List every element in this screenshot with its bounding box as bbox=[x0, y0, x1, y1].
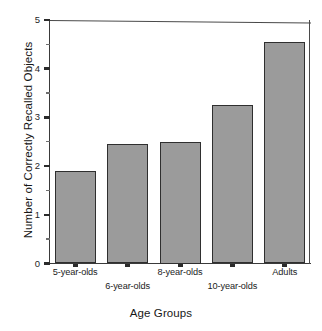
x-tick-label: 8-year-olds bbox=[140, 268, 220, 277]
bar bbox=[160, 142, 201, 264]
y-tick-major bbox=[44, 262, 50, 265]
y-tick-label: 1 bbox=[20, 210, 40, 220]
y-tick-major bbox=[44, 116, 50, 119]
y-tick-major bbox=[44, 19, 50, 22]
y-tick-major bbox=[44, 67, 50, 70]
bar bbox=[212, 105, 253, 263]
plot-frame-top bbox=[49, 20, 311, 24]
bar bbox=[264, 42, 305, 264]
x-tick bbox=[230, 264, 235, 267]
y-tick-label: 5 bbox=[20, 15, 40, 25]
x-tick bbox=[125, 264, 130, 267]
y-tick-minor bbox=[46, 92, 50, 93]
x-tick-label: Adults bbox=[245, 268, 322, 277]
x-tick-label: 6-year-olds bbox=[88, 282, 168, 291]
y-axis-title: Number of Correctly Recalled Objects bbox=[18, 15, 38, 265]
bar-chart: Number of Correctly Recalled Objects 012… bbox=[0, 0, 322, 331]
x-tick-label: 5-year-olds bbox=[35, 268, 115, 277]
bar bbox=[107, 144, 148, 263]
y-tick-label: 0 bbox=[20, 259, 40, 269]
y-tick-minor bbox=[46, 190, 50, 191]
y-tick-minor bbox=[46, 141, 50, 142]
y-tick-minor bbox=[46, 44, 50, 45]
y-tick-major bbox=[44, 214, 50, 217]
x-tick-label: 10-year-olds bbox=[192, 282, 272, 291]
y-tick-minor bbox=[46, 238, 50, 239]
plot-frame-right bbox=[309, 20, 310, 264]
y-tick-label: 2 bbox=[20, 161, 40, 171]
y-tick-major bbox=[44, 165, 50, 168]
y-tick-label: 4 bbox=[20, 64, 40, 74]
y-tick-label: 3 bbox=[20, 112, 40, 122]
bar bbox=[55, 171, 96, 264]
x-axis-title: Age Groups bbox=[0, 307, 322, 319]
